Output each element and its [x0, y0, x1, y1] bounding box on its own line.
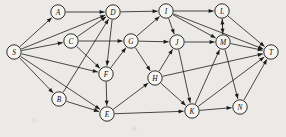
- edge-arrowhead: [168, 49, 172, 54]
- edge-arrowhead: [106, 60, 110, 65]
- edge-arrowhead: [210, 34, 215, 38]
- edge-arrowhead: [100, 10, 105, 14]
- graph-edge: [66, 101, 99, 111]
- graph-edge: [77, 17, 106, 37]
- graph-node-j[interactable]: J: [170, 35, 184, 49]
- node-circle: [148, 71, 162, 85]
- edge-arrowhead: [187, 97, 191, 102]
- graph-edge: [21, 15, 105, 49]
- graph-node-s[interactable]: S: [7, 45, 21, 59]
- edge-arrowhead: [259, 57, 264, 62]
- edge-arrowhead: [210, 40, 215, 44]
- graph-node-f[interactable]: F: [99, 67, 113, 81]
- graph-node-a[interactable]: A: [51, 5, 65, 19]
- edge-arrowhead: [216, 50, 220, 55]
- graph-edge: [19, 58, 53, 93]
- graph-node-t[interactable]: T: [264, 45, 278, 59]
- graph-edge: [20, 18, 52, 47]
- graph-edge: [179, 50, 191, 103]
- graph-node-n[interactable]: N: [233, 100, 247, 114]
- edge-arrowhead: [209, 9, 214, 13]
- edge-arrowhead: [164, 40, 169, 44]
- edge-arrowhead: [95, 105, 100, 109]
- graph-edge: [115, 111, 184, 113]
- graph-edge: [195, 50, 219, 104]
- node-circle: [233, 100, 247, 114]
- node-circle: [100, 107, 114, 121]
- node-circle: [170, 35, 184, 49]
- edge-arrowhead: [118, 39, 123, 43]
- graph-canvas: SABCDEFGHIJKLMNT: [0, 0, 286, 137]
- node-circle: [7, 45, 21, 59]
- graph-edge: [121, 11, 158, 12]
- node-circle: [52, 92, 66, 106]
- graph-edge: [63, 19, 108, 92]
- graph-edge: [244, 59, 267, 100]
- graph-node-g[interactable]: G: [124, 34, 138, 48]
- edge-arrowhead: [143, 83, 148, 88]
- edge-arrowhead: [153, 9, 158, 13]
- node-circle: [264, 45, 278, 59]
- graph-node-k[interactable]: K: [185, 104, 199, 118]
- edge-arrowhead: [104, 19, 108, 24]
- graph-node-d[interactable]: D: [106, 5, 120, 19]
- node-circle: [216, 35, 230, 49]
- graph-node-i[interactable]: I: [159, 4, 173, 18]
- node-circle: [185, 104, 199, 118]
- edge-arrowhead: [263, 59, 267, 64]
- graph-node-h[interactable]: H: [148, 71, 162, 85]
- edge-arrowhead: [257, 53, 262, 57]
- graph-node-c[interactable]: C: [64, 34, 78, 48]
- edge-arrowhead: [57, 42, 62, 46]
- node-circle: [51, 5, 65, 19]
- node-circle: [159, 4, 173, 18]
- node-circle: [124, 34, 138, 48]
- edge-arrowhead: [105, 101, 109, 106]
- edge-arrowhead: [146, 66, 150, 71]
- graph-edge: [173, 15, 216, 38]
- graph-edge: [161, 83, 186, 105]
- graph-diagram: SABCDEFGHIJKLMNT: [0, 0, 286, 137]
- edge-arrowhead: [220, 19, 224, 24]
- graph-node-m[interactable]: M: [216, 35, 230, 49]
- node-circle: [99, 67, 113, 81]
- graph-node-e[interactable]: E: [100, 107, 114, 121]
- node-circle: [215, 4, 229, 18]
- node-circle: [106, 5, 120, 19]
- edge-arrowhead: [121, 48, 126, 53]
- graph-node-b[interactable]: B: [52, 92, 66, 106]
- edge-arrowhead: [235, 94, 239, 99]
- node-circle: [64, 34, 78, 48]
- graph-edge: [22, 54, 98, 72]
- graph-edge: [225, 50, 238, 99]
- edge-arrowhead: [171, 29, 175, 34]
- graph-edge: [107, 20, 112, 66]
- edge-arrowhead: [179, 109, 184, 113]
- graph-edge: [113, 83, 148, 109]
- graph-node-l[interactable]: L: [215, 4, 229, 18]
